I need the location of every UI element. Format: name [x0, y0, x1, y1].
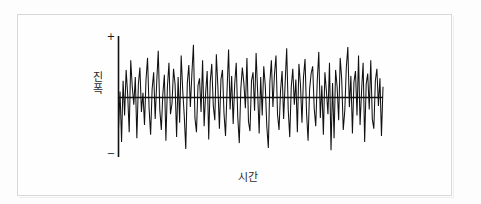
y-axis-label-char-2: 폭 [88, 84, 108, 96]
plot-area: + − 진 폭 시간 [0, 0, 481, 204]
axis-tick-negative: − [104, 149, 118, 159]
axis-tick-positive: + [104, 32, 118, 42]
figure-root: + − 진 폭 시간 [0, 0, 481, 204]
x-axis-label: 시간 [208, 168, 288, 184]
y-axis-label: 진 폭 [88, 72, 108, 96]
